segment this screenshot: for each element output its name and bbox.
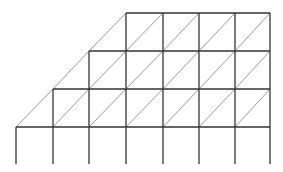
diagonal-brace <box>89 51 126 89</box>
truss-diagram <box>0 0 283 172</box>
diagonal-brace <box>89 89 126 127</box>
diagonal-brace <box>89 13 126 51</box>
diagonal-brace <box>235 13 270 51</box>
diagonal-brace <box>53 89 89 127</box>
diagonal-brace <box>163 13 199 51</box>
diagonal-brace <box>235 51 270 89</box>
diagonal-brace <box>126 13 163 51</box>
diagonal-brace <box>163 89 199 127</box>
diagonal-brace <box>235 89 270 127</box>
frame-members <box>16 13 270 164</box>
diagonal-brace <box>126 89 163 127</box>
diagonal-brace <box>53 51 89 89</box>
diagonal-brace <box>163 51 199 89</box>
diagonal-brace <box>16 89 53 127</box>
diagonal-brace <box>126 51 163 89</box>
diagonal-brace <box>199 51 235 89</box>
diagonal-brace <box>199 13 235 51</box>
diagonal-braces <box>16 13 270 127</box>
diagonal-brace <box>199 89 235 127</box>
